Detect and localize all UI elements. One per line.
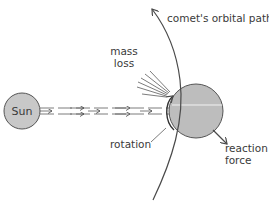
orbital-path-label: comet's orbital path bbox=[167, 12, 269, 24]
mass-loss-label-line1: mass bbox=[110, 45, 138, 57]
comet-nongravitational-force-diagram: Sun comet's orbital path bbox=[0, 0, 269, 209]
comet-circle bbox=[169, 84, 223, 138]
mass-loss-label-line2: loss bbox=[114, 57, 134, 69]
sunlight-rays bbox=[40, 108, 169, 114]
sun: Sun bbox=[4, 93, 40, 129]
rotation-pointer-line bbox=[151, 128, 166, 142]
reaction-force-label-line1: reaction bbox=[225, 142, 268, 154]
mass-loss-rays bbox=[137, 71, 170, 97]
comet-nucleus bbox=[169, 84, 223, 138]
sun-label: Sun bbox=[12, 105, 33, 118]
reaction-force-label-line2: force bbox=[225, 154, 251, 166]
rotation-label: rotation bbox=[110, 138, 151, 150]
